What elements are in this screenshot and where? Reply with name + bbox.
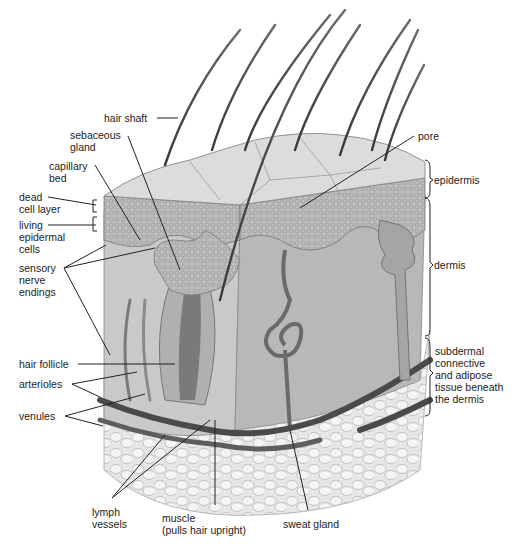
label-sweat-gland: sweat gland xyxy=(283,518,339,530)
label-dermis: dermis xyxy=(434,259,466,271)
label-sensory-nerve-endings: sensory nerve endings xyxy=(19,262,56,298)
label-lymph-vessels: lymph vessels xyxy=(92,506,127,530)
label-hair-shaft: hair shaft xyxy=(104,112,147,124)
label-subdermal: subdermal connective and adipose tissue … xyxy=(435,345,503,405)
label-hair-follicle: hair follicle xyxy=(19,358,69,370)
label-epidermis: epidermis xyxy=(434,174,480,186)
label-venules: venules xyxy=(19,410,55,422)
label-arterioles: arterioles xyxy=(19,378,62,390)
label-living-epidermal-cells: living epidermal cells xyxy=(19,219,65,255)
skin-diagram xyxy=(0,0,521,544)
label-muscle: muscle (pulls hair upright) xyxy=(162,512,246,536)
label-dead-cell-layer: dead cell layer xyxy=(19,191,60,215)
label-capillary-bed: capillary bed xyxy=(49,160,88,184)
label-pore: pore xyxy=(418,130,439,142)
label-sebaceous-gland: sebaceous gland xyxy=(70,129,121,153)
